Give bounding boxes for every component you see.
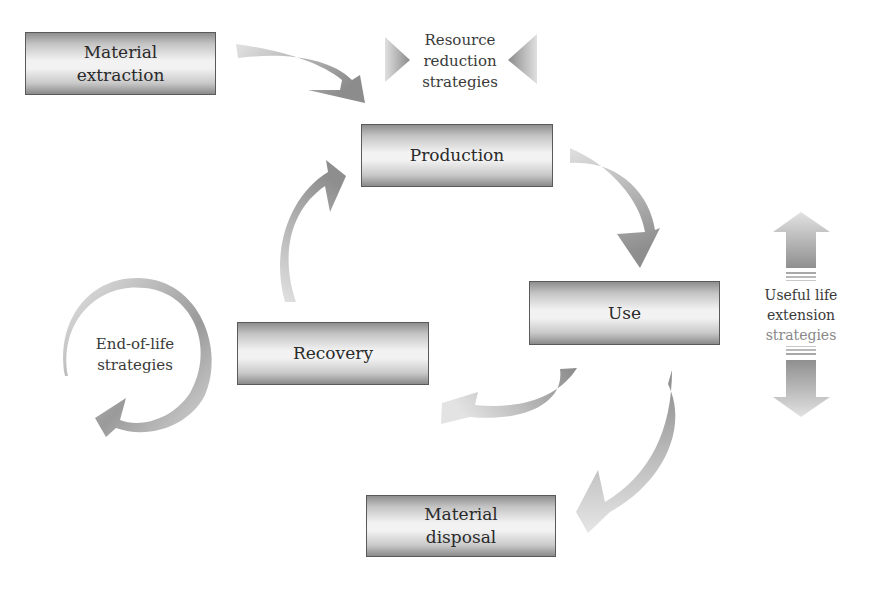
use-box: Use bbox=[529, 281, 720, 345]
resource-reduction-line2: reduction bbox=[410, 51, 510, 72]
material-extraction-line1: Material bbox=[84, 41, 158, 64]
useful-life-line2: extension bbox=[752, 305, 850, 325]
material-extraction-line2: extraction bbox=[77, 64, 165, 87]
use-label: Use bbox=[608, 302, 641, 325]
recovery-box: Recovery bbox=[237, 322, 429, 385]
arrow-recovery-to-production bbox=[280, 160, 346, 302]
recovery-label: Recovery bbox=[293, 342, 373, 365]
useful-life-line1: Useful life bbox=[752, 285, 850, 305]
resource-reduction-line3: strategies bbox=[410, 72, 510, 93]
arrow-useful-life-up bbox=[773, 212, 830, 281]
useful-life-line3: strategies bbox=[752, 325, 850, 345]
arrow-production-to-use bbox=[570, 148, 660, 268]
resource-reduction-label: Resource reduction strategies bbox=[410, 30, 510, 93]
resource-reduction-line1: Resource bbox=[410, 30, 510, 51]
material-disposal-line2: disposal bbox=[426, 526, 496, 549]
material-disposal-line1: Material bbox=[424, 503, 498, 526]
production-box: Production bbox=[361, 124, 553, 187]
material-extraction-box: Material extraction bbox=[25, 32, 216, 95]
useful-life-extension-label: Useful life extension strategies bbox=[752, 285, 850, 345]
arrow-useful-life-down bbox=[773, 346, 830, 417]
arrow-extraction-to-production bbox=[236, 44, 365, 103]
material-disposal-box: Material disposal bbox=[366, 495, 556, 557]
end-of-life-line1: End-of-life bbox=[85, 334, 185, 355]
arrow-resource-reduction-left bbox=[508, 34, 537, 84]
arrow-use-to-recovery bbox=[441, 368, 577, 424]
end-of-life-label: End-of-life strategies bbox=[85, 334, 185, 376]
end-of-life-line2: strategies bbox=[85, 355, 185, 376]
production-label: Production bbox=[410, 144, 505, 167]
arrow-use-to-disposal bbox=[576, 370, 675, 533]
arrow-resource-reduction-right bbox=[385, 37, 410, 82]
